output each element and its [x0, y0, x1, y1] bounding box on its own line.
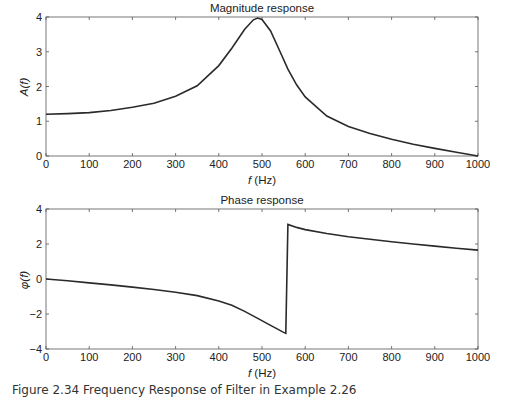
magnitude-y-axis-label: A(f)	[18, 78, 30, 98]
x-tick-label: 200	[123, 351, 141, 363]
phase-y-axis-label: φ(f)	[18, 271, 30, 290]
magnitude-axes-box	[46, 17, 478, 156]
phase-curve	[46, 224, 478, 333]
x-tick-label: 200	[123, 158, 141, 170]
phase-plot: Phase response 0100200300400500600700800…	[18, 194, 490, 379]
magnitude-x-axis-label: f (Hz)	[248, 174, 276, 186]
figure-caption: Figure 2.34 Frequency Response of Filter…	[12, 383, 357, 397]
y-tick-label: 0	[36, 273, 42, 285]
x-tick-label: 300	[166, 351, 184, 363]
x-tick-label: 300	[166, 158, 184, 170]
y-tick-label: 4	[36, 11, 42, 23]
x-tick-label: 600	[296, 158, 314, 170]
x-tick-label: 1000	[466, 158, 490, 170]
x-tick-label: 700	[339, 158, 357, 170]
x-tick-label: 0	[43, 158, 49, 170]
y-tick-label: −4	[29, 343, 42, 355]
x-tick-label: 800	[382, 351, 400, 363]
phase-x-axis-label: f (Hz)	[248, 367, 276, 379]
x-tick-label: 500	[253, 158, 271, 170]
magnitude-plot: Magnitude response 010020030040050060070…	[18, 2, 490, 186]
x-tick-label: 600	[296, 351, 314, 363]
y-tick-label: 2	[36, 81, 42, 93]
x-tick-label: 0	[43, 351, 49, 363]
magnitude-curve	[46, 18, 478, 156]
x-tick-label: 700	[339, 351, 357, 363]
y-tick-label: 0	[36, 150, 42, 162]
y-tick-label: 1	[36, 115, 42, 127]
y-tick-label: −2	[29, 308, 42, 320]
y-tick-label: 4	[36, 203, 42, 215]
magnitude-plot-title: Magnitude response	[210, 2, 314, 14]
y-tick-label: 2	[36, 238, 42, 250]
x-tick-label: 500	[253, 351, 271, 363]
x-tick-label: 900	[426, 351, 444, 363]
x-tick-label: 900	[426, 158, 444, 170]
x-tick-label: 100	[80, 351, 98, 363]
x-tick-label: 100	[80, 158, 98, 170]
y-tick-label: 3	[36, 46, 42, 58]
x-tick-label: 400	[210, 351, 228, 363]
phase-plot-title: Phase response	[220, 194, 303, 206]
phase-axes-box	[46, 209, 478, 349]
x-tick-label: 800	[382, 158, 400, 170]
x-tick-label: 400	[210, 158, 228, 170]
x-tick-label: 1000	[466, 351, 490, 363]
